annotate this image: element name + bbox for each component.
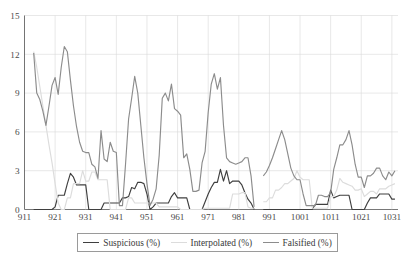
x-axis-tick-label: 981 [232, 212, 246, 222]
y-axis-tick-label: 15 [10, 11, 20, 21]
legend-label-interpolated: Interpolated (%) [191, 238, 253, 248]
legend-swatch-falsified [263, 242, 279, 243]
y-axis-tick-label: 3 [15, 166, 20, 176]
x-axis-tick-label: 1031 [383, 212, 402, 222]
legend-item-suspicious[interactable]: Suspicious (%) [81, 238, 162, 248]
x-axis-tick-label: 911 [18, 212, 32, 222]
legend-item-falsified[interactable]: Falsified (%) [261, 238, 334, 248]
series-line-falsified [34, 47, 254, 207]
x-axis-tick-label: 931 [79, 212, 93, 222]
legend-item-interpolated[interactable]: Interpolated (%) [169, 238, 255, 248]
x-axis-tick-label: 1001 [291, 212, 310, 222]
y-axis-tick-label: 12 [10, 50, 20, 60]
x-axis-tick-label: 1011 [322, 212, 340, 222]
x-axis-tick-label: 951 [140, 212, 154, 222]
x-axis-tick-label: 961 [171, 212, 185, 222]
x-axis-tick-label: 991 [263, 212, 277, 222]
chart-legend: Suspicious (%) Interpolated (%) Falsifie… [77, 233, 338, 252]
y-axis-tick-label: 9 [15, 88, 20, 98]
legend-swatch-interpolated [171, 242, 187, 243]
legend-label-suspicious: Suspicious (%) [103, 238, 160, 248]
y-axis-tick-label: 6 [15, 127, 20, 137]
chart-container: 0369121591192193194195196197198199110011… [0, 0, 403, 264]
line-chart-plot: 0369121591192193194195196197198199110011… [0, 0, 403, 264]
legend-label-falsified: Falsified (%) [283, 238, 332, 248]
legend-swatch-suspicious [83, 242, 99, 243]
series-line-falsified [263, 131, 395, 206]
x-axis-tick-label: 921 [48, 212, 62, 222]
x-axis-tick-label: 1021 [352, 212, 371, 222]
series-line-interpolated [263, 171, 395, 209]
x-axis-tick-label: 971 [201, 212, 215, 222]
x-axis-tick-label: 941 [109, 212, 123, 222]
